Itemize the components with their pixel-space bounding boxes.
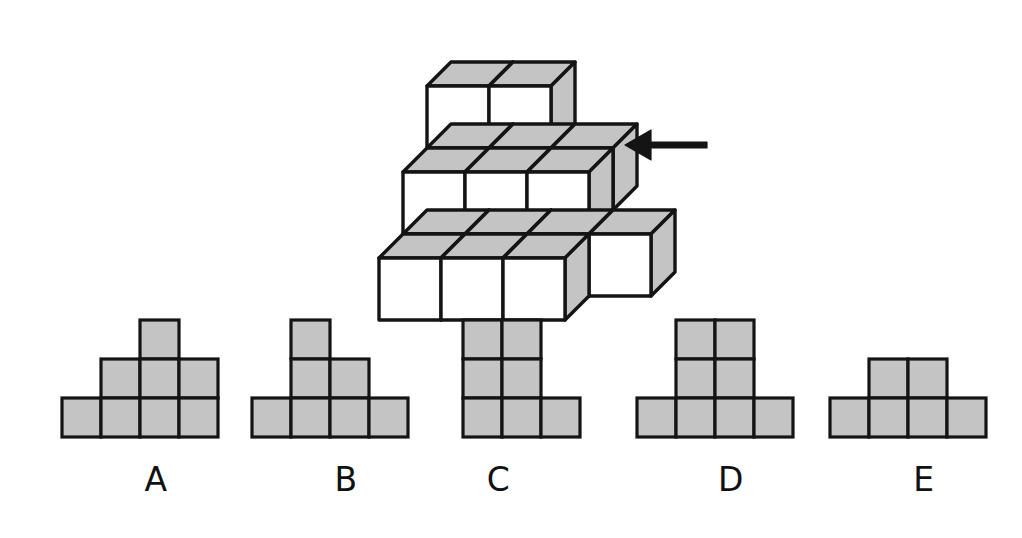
cube (503, 234, 589, 320)
option-a[interactable] (62, 320, 218, 437)
option-cell (291, 320, 330, 359)
option-cell (676, 398, 715, 437)
option-cell (541, 398, 580, 437)
cube-front-face (589, 234, 651, 296)
option-cell (908, 398, 947, 437)
option-cell (101, 398, 140, 437)
option-cell (369, 398, 408, 437)
option-cell (502, 359, 541, 398)
option-cell (101, 359, 140, 398)
option-cell (463, 320, 502, 359)
cube-front-face (379, 258, 441, 320)
question-canvas: ABCDE (0, 0, 1022, 538)
option-cell (463, 398, 502, 437)
option-cell (140, 359, 179, 398)
option-cell (330, 359, 369, 398)
option-b[interactable] (252, 320, 408, 437)
option-cell (179, 398, 218, 437)
option-cell (676, 359, 715, 398)
cube (589, 210, 675, 296)
option-label-d: D (671, 460, 791, 499)
option-cell (947, 398, 986, 437)
option-label-c: C (439, 460, 559, 499)
option-cell (637, 398, 676, 437)
option-d[interactable] (637, 320, 793, 437)
option-label-b: B (286, 460, 406, 499)
option-cell (291, 359, 330, 398)
option-cell (330, 398, 369, 437)
option-cell (715, 398, 754, 437)
option-cell (830, 398, 869, 437)
option-cell (179, 359, 218, 398)
option-cell (715, 320, 754, 359)
option-cell (252, 398, 291, 437)
option-cell (908, 359, 947, 398)
option-e[interactable] (830, 359, 986, 437)
cube-front-face (441, 258, 503, 320)
option-cell (502, 320, 541, 359)
option-cell (291, 398, 330, 437)
cube-front-face (503, 258, 565, 320)
cube-stack-group (379, 62, 675, 320)
figure-svg (0, 0, 1022, 538)
option-cell (502, 398, 541, 437)
option-cell (715, 359, 754, 398)
option-cell (754, 398, 793, 437)
option-cell (676, 320, 715, 359)
option-cell (869, 359, 908, 398)
option-c[interactable] (463, 320, 580, 437)
option-label-e: E (864, 460, 984, 499)
option-cell (140, 398, 179, 437)
option-cell (463, 359, 502, 398)
option-cell (869, 398, 908, 437)
option-cell (62, 398, 101, 437)
option-cell (140, 320, 179, 359)
option-label-a: A (96, 460, 216, 499)
